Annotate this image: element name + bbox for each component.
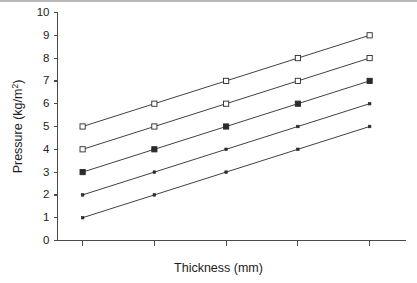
y-tick-label: 8 [43,52,49,64]
series-container [80,33,372,219]
y-tick-label: 9 [43,29,49,41]
data-point-marker [152,124,157,129]
data-point-marker [80,124,85,129]
data-point-marker [295,78,300,83]
data-point-marker [225,171,228,174]
data-point-marker [80,147,85,152]
plot-area: 012345678910 Pressure (kg/m2) Thickness … [0,0,417,283]
data-point-marker [153,171,156,174]
data-point-marker [297,125,300,128]
data-point-marker [367,33,372,38]
y-axis-title-close: ) [11,80,25,84]
data-point-marker [153,194,156,197]
x-axis-title-text: Thickness (mm) [174,261,263,275]
data-point-marker [367,56,372,61]
series-series-5 [81,125,371,219]
data-point-marker [81,216,84,219]
data-point-marker [295,56,300,61]
chart-figure: 012345678910 Pressure (kg/m2) Thickness … [0,0,417,283]
data-point-marker [368,125,371,128]
y-axis: 012345678910 [37,6,58,246]
data-point-marker [368,102,371,105]
data-point-marker [81,194,84,197]
data-point-marker [152,147,157,152]
data-point-marker [224,101,229,106]
y-tick-label: 1 [43,211,49,223]
y-tick-label: 10 [37,6,50,18]
y-tick-label: 7 [43,74,49,86]
data-point-marker [225,148,228,151]
y-tick-label: 2 [43,188,49,200]
y-axis-title-text: Pressure (kg/m2) [10,80,25,174]
data-point-marker [367,78,372,83]
y-tick-label: 4 [43,143,50,155]
series-series-2 [80,56,372,152]
series-series-1 [80,33,372,129]
y-tick-label: 3 [43,166,49,178]
y-axis-title: Pressure (kg/m2) [10,80,25,174]
data-point-marker [152,101,157,106]
y-axis-title-base: Pressure (kg/m [11,89,25,174]
x-axis-title: Thickness (mm) [174,261,263,275]
data-point-marker [224,124,229,129]
data-point-marker [224,78,229,83]
y-tick-label: 5 [43,120,49,132]
series-series-3 [80,78,372,174]
x-axis [58,241,406,246]
data-point-marker [295,101,300,106]
series-series-4 [81,102,371,196]
data-point-marker [80,170,85,175]
y-tick-label: 6 [43,97,49,109]
data-point-marker [297,148,300,151]
y-tick-label: 0 [43,234,49,246]
